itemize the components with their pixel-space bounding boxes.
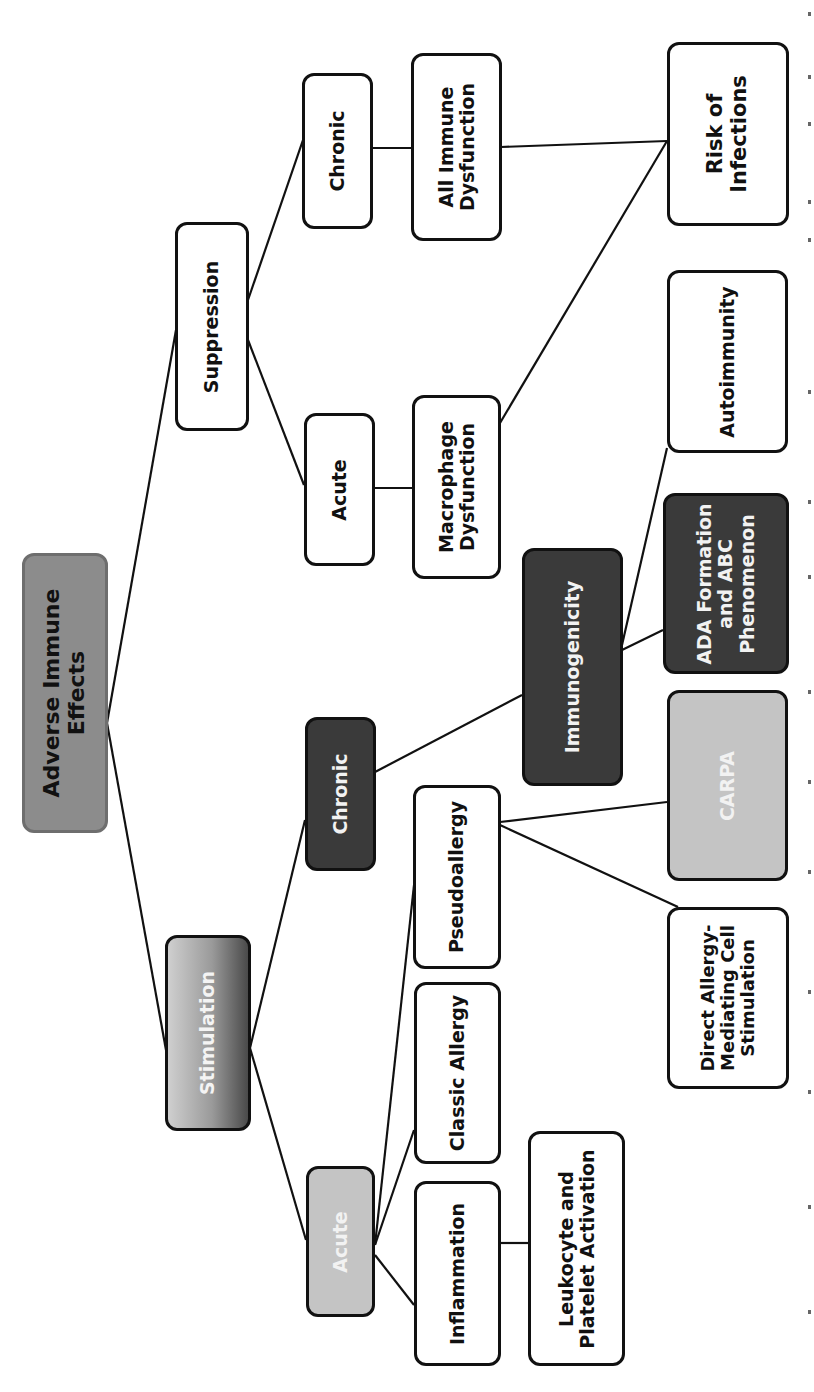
node-suppression-acute: Acute <box>304 413 375 566</box>
edge-stimulation-chronic <box>250 820 305 1048</box>
edge-root-suppression <box>107 330 176 723</box>
truncated-caption <box>804 0 814 1392</box>
node-inflammation: Inflammation <box>414 1181 501 1366</box>
edge-macrophage-risk <box>500 141 667 423</box>
node-label: Direct Allergy- Mediating Cell Stimulati… <box>698 924 758 1071</box>
node-label: Immunogenicity <box>562 581 583 754</box>
node-label: Chronic <box>330 753 351 834</box>
node-label: Leukocyte and Platelet Activation <box>555 1149 598 1348</box>
node-stimulation-acute: Acute <box>306 1166 375 1317</box>
node-label: Inflammation <box>447 1202 468 1344</box>
node-suppression-chronic: Chronic <box>302 73 373 229</box>
node-stimulation: Stimulation <box>165 935 251 1131</box>
node-label: Adverse Immune Effects <box>40 589 89 798</box>
edge-acute-inflammation <box>375 1255 414 1305</box>
edge-immunogenicity-autoimmunity <box>622 448 667 645</box>
node-stimulation-chronic: Chronic <box>305 717 376 871</box>
node-leukocyte-platelet-activation: Leukocyte and Platelet Activation <box>528 1131 625 1366</box>
node-immunogenicity: Immunogenicity <box>522 548 623 786</box>
node-label: Suppression <box>201 260 222 392</box>
adverse-immune-effects-diagram: Adverse Immune Effects Suppression Chron… <box>0 0 814 1392</box>
edge-allimmune-risk <box>501 141 667 147</box>
node-autoimmunity: Autoimmunity <box>667 270 788 453</box>
node-adverse-immune-effects: Adverse Immune Effects <box>22 553 108 833</box>
edge-immunogenicity-ada <box>622 630 663 650</box>
node-label: All Immune Dysfunction <box>435 83 478 211</box>
edge-root-stimulation <box>107 723 166 1050</box>
edge-pseudo-carpa <box>500 802 667 822</box>
edge-suppression-chronic <box>248 140 303 300</box>
node-label: Autoimmunity <box>717 286 738 438</box>
node-label: Chronic <box>327 110 348 191</box>
node-label: Acute <box>330 1211 351 1272</box>
node-label: Classic Allergy <box>447 995 468 1151</box>
node-pseudoallergy: Pseudoallergy <box>413 785 501 969</box>
node-label: ADA Formation and ABC Phenomenon <box>694 503 758 664</box>
node-carpa: CARPA <box>667 690 788 881</box>
node-direct-allergy-mediating: Direct Allergy- Mediating Cell Stimulati… <box>667 907 789 1089</box>
node-label: Risk of Infections <box>704 75 751 193</box>
node-classic-allergy: Classic Allergy <box>414 982 501 1164</box>
node-label: Macrophage Dysfunction <box>435 421 478 553</box>
edge-pseudo-direct <box>500 825 678 907</box>
node-label: Stimulation <box>197 971 218 1095</box>
edge-chronic-immunogenicity <box>375 695 522 772</box>
node-all-immune-dysfunction: All Immune Dysfunction <box>411 53 502 241</box>
edge-acute-pseudoallergy <box>375 885 414 1245</box>
node-risk-of-infections: Risk of Infections <box>667 42 789 226</box>
edge-stimulation-acute <box>250 1048 306 1240</box>
edge-suppression-acute <box>248 340 304 485</box>
node-suppression: Suppression <box>175 222 249 431</box>
node-label: Acute <box>329 459 350 520</box>
node-macrophage-dysfunction: Macrophage Dysfunction <box>412 395 501 579</box>
node-label: Pseudoallergy <box>446 801 467 953</box>
node-label: CARPA <box>717 750 738 820</box>
node-ada-formation-abc: ADA Formation and ABC Phenomenon <box>663 493 789 674</box>
